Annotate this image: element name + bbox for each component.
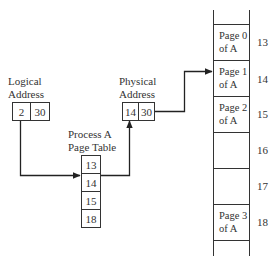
frame-15-line2: of A: [219, 115, 237, 127]
physical-address-label-line1: Physical: [119, 75, 156, 88]
frame-15-line1: Page 2: [219, 102, 247, 114]
frame-number-13: 13: [257, 36, 268, 48]
frame-13-line2: of A: [219, 43, 237, 55]
page-table-entry-0: 13: [81, 155, 101, 174]
frame-number-17: 17: [257, 180, 268, 192]
page-table-label-line2: Page Table: [68, 141, 116, 154]
logical-address-label-line2: Address: [8, 88, 44, 101]
physical-frame-number: 14: [122, 102, 139, 121]
frame-number-16: 16: [257, 144, 268, 156]
frame-18-line1: Page 3: [219, 210, 247, 222]
page-table-entry-1: 14: [81, 173, 101, 192]
frame-number-14: 14: [257, 73, 268, 85]
frame-18-line2: of A: [219, 223, 237, 235]
frame-13-line1: Page 0: [219, 30, 247, 42]
physical-address-label-line2: Address: [119, 88, 155, 101]
frame-number-18: 18: [257, 216, 268, 228]
logical-address-label-line1: Logical: [8, 75, 42, 88]
frame-number-15: 15: [257, 108, 268, 120]
frame-14-line1: Page 1: [219, 66, 247, 78]
physical-offset: 30: [138, 102, 155, 121]
logical-offset: 30: [30, 102, 50, 121]
page-table-entry-2: 15: [81, 191, 101, 210]
page-table-label-line1: Process A: [68, 128, 112, 141]
logical-page-number: 2: [12, 102, 31, 121]
page-table-entry-3: 18: [81, 209, 101, 228]
frame-14-line2: of A: [219, 79, 237, 91]
